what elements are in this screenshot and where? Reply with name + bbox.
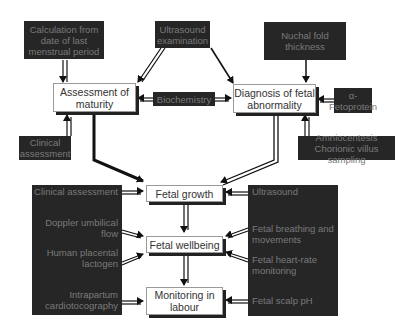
node-monitoring-in-labour: Monitoring in labour [146, 287, 223, 315]
right-ultrasound: Ultrasound [252, 186, 336, 197]
right-breathing: Fetal breathing and movements [252, 223, 336, 245]
left-doppler: Doppler umbilical flow [32, 217, 118, 239]
right-heartrate: Fetal heart-rate monitoring [252, 254, 336, 276]
source-amniocentesis: Amniocentesis Chorionic villus sampling [298, 136, 395, 160]
source-clinical-assessment: Clinical assessment [19, 136, 71, 160]
node-fetal-growth: Fetal growth [146, 185, 223, 202]
node-diagnosis-of-fetal-abnormality: Diagnosis of fetal abnormality [233, 84, 316, 113]
source-lmp: Calculation from date of last menstrual … [24, 21, 104, 59]
left-clinical-assessment: Clinical assessment [32, 186, 118, 197]
left-hpl: Human placental lactogen [32, 247, 118, 269]
source-biochemistry: Biochemistry [153, 92, 215, 106]
left-ctg: Intrapartum cardiotocography [32, 289, 118, 311]
node-fetal-wellbeing: Fetal wellbeing [146, 236, 223, 253]
source-afp: α-Fetoprotein [334, 88, 372, 113]
right-scalp-ph: Fetal scalp pH [252, 295, 336, 306]
source-nuchal-fold: Nuchal fold thickness [264, 22, 346, 60]
node-assessment-of-maturity: Assessment of maturity [53, 83, 136, 112]
source-ultrasound-exam: Ultrasound examination [155, 21, 210, 48]
